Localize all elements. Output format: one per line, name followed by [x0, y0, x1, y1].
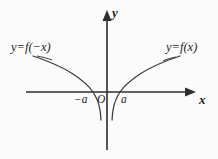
curve-left-f-neg-x: [33, 56, 101, 120]
math-figure: y x y=f(−x) y=f(x) −a O a: [0, 0, 218, 159]
right-label-leader-line: [163, 57, 176, 61]
y-axis-label: y: [112, 6, 118, 19]
figure-canvas: [0, 0, 218, 159]
tick-label-positive-a: a: [121, 94, 127, 106]
y-axis-arrow-icon: [103, 10, 112, 21]
origin-label: O: [97, 94, 105, 106]
left-curve-label: y=f(−x): [11, 41, 51, 54]
right-curve-label: y=f(x): [166, 41, 197, 54]
tick-label-negative-a: −a: [74, 94, 88, 106]
x-axis-label: x: [199, 93, 206, 106]
curve-right-fx: [112, 56, 180, 120]
x-axis-arrow-icon: [185, 88, 196, 97]
